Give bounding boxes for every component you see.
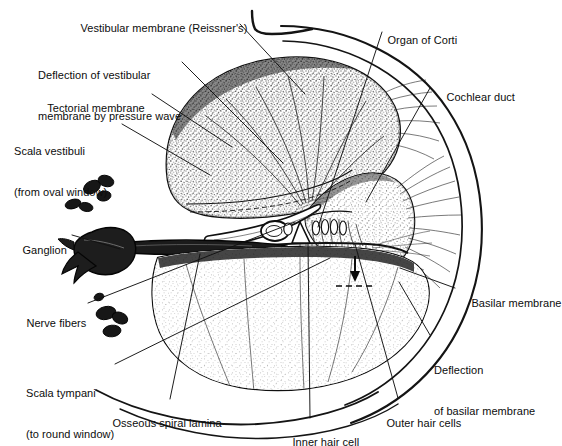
label-deflection-of-basilar-membrane: Deflection of basilar membrane [434,337,535,445]
label-inner-hair-cell: Inner hair cell [280,423,359,446]
label-cochlear-duct: Cochlear duct [434,78,515,117]
label-basilar-membrane: Basilar membrane [459,284,562,323]
label-organ-of-corti: Organ of Corti [375,21,457,60]
label-nerve-fibers: Nerve fibers [14,304,86,343]
label-osseous-spiral-lamina: Osseous spiral lamina [100,404,222,443]
label-scala-vestibuli: Scala vestibuli (from oval window) [14,118,107,226]
label-ganglion: Ganglion [10,231,67,270]
